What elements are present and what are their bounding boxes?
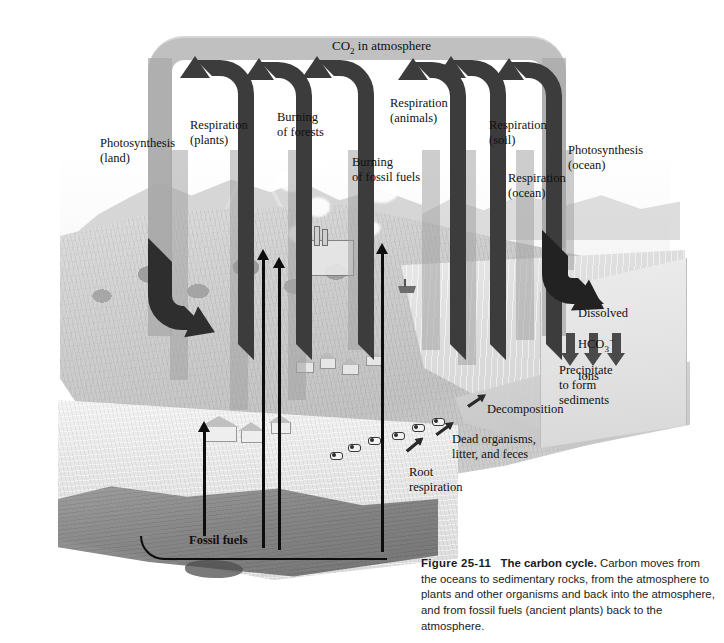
cow — [412, 424, 425, 432]
label-photosynthesis-ocean: Photosynthesis (ocean) — [568, 143, 643, 173]
cow — [348, 444, 361, 452]
figure-number: Figure 25-11 — [421, 557, 491, 569]
figure-caption: Figure 25-11 The carbon cycle. Carbon mo… — [421, 556, 717, 635]
fossil-fuel-arrow-4 — [381, 252, 384, 552]
photosynthesis-land-arrow — [148, 238, 222, 358]
precipitate-arrow-1 — [566, 333, 575, 353]
co2-atmosphere-label: CO2 in atmosphere — [332, 23, 431, 57]
cow — [432, 418, 445, 426]
label-respiration-animals: Respiration (animals) — [390, 96, 448, 126]
fossil-fuel-arrow-3 — [278, 266, 281, 550]
cow — [392, 432, 405, 440]
fossil-fuel-arrow-2 — [262, 258, 265, 548]
label-dead-organisms: Dead organisms, litter, and feces — [452, 432, 536, 462]
fossil-fuel-connector — [140, 536, 387, 560]
cow — [368, 437, 381, 445]
label-burning-fossil-fuels: Burning of fossil fuels — [352, 155, 420, 185]
burning-fossil-fuels-arrow — [318, 60, 374, 360]
label-root-respiration: Root respiration — [409, 465, 462, 495]
hco3-subscript: 3 — [604, 344, 609, 354]
cow — [330, 452, 343, 460]
caption-title: The carbon cycle. — [501, 557, 597, 569]
label-decomposition: Decomposition — [487, 402, 563, 417]
lizard — [185, 560, 243, 578]
label-dissolved-hco3-ions: Dissolved HCO3− ions — [578, 291, 628, 384]
carbon-cycle-figure: CO2 in atmosphere Photosynthesis (land) … — [0, 0, 724, 643]
label-respiration-ocean: Respiration (ocean) — [508, 171, 566, 201]
label-burning-of-forests: Burning of forests — [277, 110, 324, 140]
label-photosynthesis-land: Photosynthesis (land) — [100, 136, 175, 166]
hco3-prefix: HCO — [578, 337, 604, 351]
hco3-superscript: − — [609, 335, 614, 345]
respiration-soil-arrow — [452, 60, 506, 360]
burning-of-forests-arrow — [260, 62, 312, 360]
fossil-fuel-arrow-1 — [203, 430, 206, 536]
dissolved-line1: Dissolved — [578, 306, 628, 320]
dissolved-line3: ions — [578, 369, 599, 383]
label-respiration-plants: Respiration (plants) — [190, 118, 248, 148]
label-fossil-fuels: Fossil fuels — [189, 533, 248, 548]
label-respiration-soil: Respiration (soil) — [489, 118, 547, 148]
